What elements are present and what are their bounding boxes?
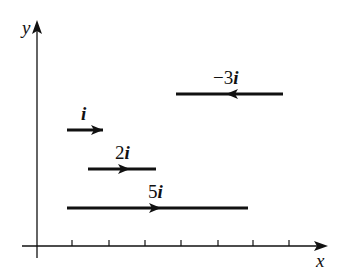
y-axis (32, 20, 42, 258)
x-axis-ticks (72, 240, 289, 246)
vector-i-label: i (81, 104, 86, 123)
vector-2i-label: 2i (115, 143, 130, 162)
x-axis-label: x (316, 251, 324, 270)
vector-i (67, 125, 103, 135)
vector-5i-label: 5i (148, 182, 163, 201)
x-axis (22, 241, 328, 251)
vector-diagram (0, 0, 341, 280)
y-axis-label: y (22, 18, 30, 37)
vector-5i (67, 203, 248, 213)
vector-2i (88, 164, 156, 174)
vector-neg3i (176, 89, 283, 99)
vector-neg3i-label: −3i (213, 68, 239, 87)
